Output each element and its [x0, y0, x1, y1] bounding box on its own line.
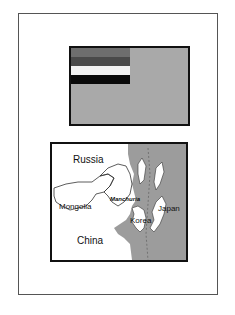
flag-stripe-4: [71, 75, 130, 84]
map-label-mongolia: Mongolia: [59, 202, 91, 211]
map-label-japan: Japan: [158, 204, 180, 213]
map-label-manchuria: Manchuria: [110, 196, 140, 202]
flag-stripe-2: [71, 57, 130, 66]
flag-image: [69, 46, 190, 126]
flag-stripe-1: [71, 48, 130, 57]
map-label-korea: Korea: [130, 216, 151, 225]
map-image: Russia Mongolia Manchuria Korea Japan Ch…: [50, 142, 188, 262]
flag-stripe-3: [71, 66, 130, 75]
map-label-russia: Russia: [73, 154, 104, 165]
map-label-china: China: [77, 235, 103, 246]
